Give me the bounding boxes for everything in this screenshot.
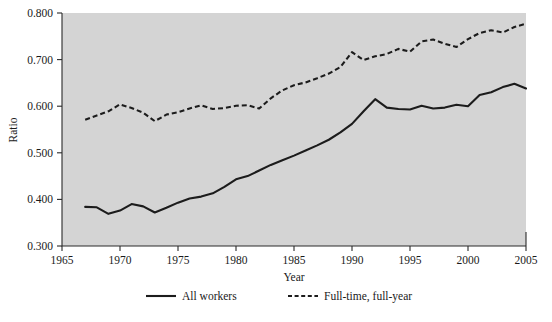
y-tick-label: 0.400 (27, 193, 53, 205)
x-tick-label: 2005 (515, 254, 538, 266)
x-tick-label: 1985 (283, 254, 306, 266)
caption-clipped (150, 315, 480, 322)
x-tick-label: 1975 (167, 254, 190, 266)
y-axis-title: Ratio (7, 117, 19, 142)
x-axis-title: Year (283, 271, 304, 283)
line-chart: 0.3000.4000.5000.6000.7000.800 196519701… (0, 0, 552, 322)
x-tick-label: 2000 (457, 254, 480, 266)
chart-legend: All workersFull-time, full-year (146, 290, 412, 303)
y-tick-label: 0.700 (27, 54, 53, 66)
y-tick-label: 0.600 (27, 100, 53, 112)
legend-label: Full-time, full-year (324, 290, 412, 303)
chart-figure: 0.3000.4000.5000.6000.7000.800 196519701… (0, 0, 552, 322)
x-tick-label: 1980 (225, 254, 248, 266)
legend-label: All workers (182, 290, 237, 302)
x-tick-label: 1970 (109, 254, 132, 266)
x-tick-label: 1965 (51, 254, 74, 266)
y-tick-label: 0.500 (27, 147, 53, 159)
y-axis-ticks: 0.3000.4000.5000.6000.7000.800 (27, 7, 62, 252)
x-tick-label: 1995 (399, 254, 422, 266)
y-tick-label: 0.300 (27, 240, 53, 252)
x-tick-label: 1990 (341, 254, 364, 266)
x-axis-ticks: 196519701975198019851990199520002005 (51, 246, 538, 266)
y-tick-label: 0.800 (27, 7, 53, 19)
